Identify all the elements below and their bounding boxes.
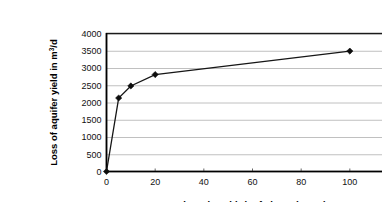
y-axis-tick-label: 4000 (81, 29, 101, 39)
y-axis-tick-label: 2500 (81, 81, 101, 91)
y-axis-tick-label: 1000 (81, 132, 101, 142)
y-axis-tick-label: 0 (96, 167, 101, 177)
y-axis-tick-label: 3500 (81, 46, 101, 56)
y-axis-tick-label: 1500 (81, 115, 101, 125)
x-axis-tick-label: 100 (342, 177, 357, 187)
x-axis-tick-label: 0 (104, 177, 109, 187)
y-axis-tick-label: 500 (86, 150, 101, 160)
y-axis-tick-label: 2000 (81, 98, 101, 108)
x-axis-title: Time since birth of plume (years) (178, 199, 327, 202)
x-axis-tick-label: 40 (199, 177, 209, 187)
y-axis-title-text: Loss of aquifer yield in m (48, 51, 59, 166)
y-axis-tick-label: 3000 (81, 63, 101, 73)
y-axis-title: Loss of aquifer yield in m3/d (48, 39, 59, 166)
svg-text:Loss of aquifer yield in m3/d: Loss of aquifer yield in m3/d (48, 39, 59, 166)
x-axis-tick-label: 60 (247, 177, 257, 187)
chart-canvas: 05001000150020002500300035004000 0204060… (40, 16, 382, 202)
chart-background (40, 16, 382, 202)
x-axis-tick-label: 80 (296, 177, 306, 187)
x-axis-tick-label: 20 (150, 177, 160, 187)
y-axis-unit-denominator: /d (48, 39, 59, 48)
chart-figure: 05001000150020002500300035004000 0204060… (40, 16, 382, 202)
